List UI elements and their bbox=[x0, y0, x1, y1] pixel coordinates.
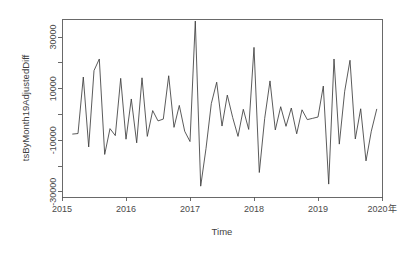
y-axis-title: tsByMonth19AdjustedDiff bbox=[20, 54, 31, 161]
x-tick-label: 2018 bbox=[244, 204, 264, 214]
y-tick-label: 30000 bbox=[48, 25, 58, 50]
x-axis-ticks: 201520162017201820192020年 bbox=[52, 197, 397, 214]
timeseries-plot: -30000-100001000030000 20152016201720182… bbox=[0, 0, 402, 256]
y-tick-label: 10000 bbox=[48, 76, 58, 101]
y-tick-label: -10000 bbox=[48, 126, 58, 154]
x-tick-label: 2019 bbox=[308, 204, 328, 214]
plot-frame bbox=[62, 19, 382, 197]
x-tick-label: 2016 bbox=[116, 204, 136, 214]
y-axis-ticks: -30000-100001000030000 bbox=[48, 25, 62, 206]
x-tick-label: 2017 bbox=[180, 204, 200, 214]
series-line-tsbymonth19adjusteddiff bbox=[73, 21, 377, 186]
x-tick-label: 2020年 bbox=[367, 203, 396, 214]
chart-figure: -30000-100001000030000 20152016201720182… bbox=[0, 0, 402, 256]
x-axis-title: Time bbox=[212, 226, 233, 237]
y-tick-label: -30000 bbox=[48, 178, 58, 206]
x-tick-label: 2015 bbox=[52, 204, 72, 214]
